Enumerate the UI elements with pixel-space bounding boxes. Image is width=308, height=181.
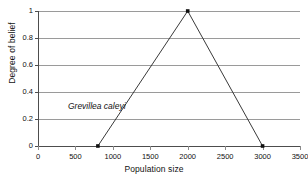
x-tick-mark-4 [188,146,189,150]
x-tick-mark-3 [150,146,151,150]
x-axis-title: Population size [0,164,308,174]
y-tick-label-3: 0.6 [23,61,33,69]
series-marker-1 [186,9,190,13]
y-tick-label-5: 1 [29,7,33,15]
y-tick-label-2: 0.4 [23,88,33,96]
x-tick-label-7: 3500 [292,153,308,161]
series-marker-2 [261,144,265,148]
x-tick-label-1: 500 [69,153,82,161]
x-tick-label-6: 3000 [254,153,271,161]
y-tick-label-0: 0 [29,142,33,150]
y-axis-title: Degree of belief [7,1,17,105]
x-tick-label-2: 1000 [105,153,122,161]
x-tick-label-0: 0 [36,153,40,161]
plot-area: Grevillea caleyi [38,11,300,146]
annotation-species-label: Grevillea caleyi [68,101,126,111]
x-tick-mark-5 [225,146,226,150]
series-line-grevillea-caleyi [98,11,263,146]
series-markers [96,9,264,148]
x-tick-mark-0 [38,146,39,150]
chart-figure: Grevillea caleyi 00.20.40.60.81 05001000… [0,0,308,181]
x-tick-mark-1 [75,146,76,150]
x-tick-label-5: 2500 [217,153,234,161]
x-tick-label-3: 1500 [142,153,159,161]
y-tick-label-1: 0.2 [23,115,33,123]
series-svg [38,11,300,146]
x-tick-mark-2 [113,146,114,150]
y-tick-label-4: 0.8 [23,34,33,42]
x-tick-label-4: 2000 [179,153,196,161]
gridline-y-0 [38,146,300,147]
series-marker-0 [96,144,100,148]
x-tick-mark-7 [300,146,301,150]
